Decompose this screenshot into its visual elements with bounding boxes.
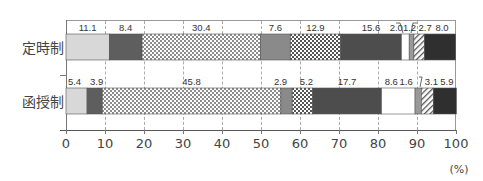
x-tick-mark (144, 130, 145, 134)
x-tick-mark (300, 130, 301, 134)
x-tick-mark (339, 130, 340, 134)
x-tick-label: 30 (175, 136, 192, 151)
x-tick-mark (183, 130, 184, 134)
x-axis-line (60, 130, 456, 131)
x-tick-mark (378, 130, 379, 134)
x-tick-label: 40 (214, 136, 231, 151)
leader-lines (0, 0, 483, 181)
x-axis-unit: (%) (449, 163, 468, 176)
x-tick-mark (66, 130, 67, 134)
x-tick-label: 80 (370, 136, 387, 151)
x-tick-mark (261, 130, 262, 134)
x-tick-label: 100 (444, 136, 469, 151)
x-tick-label: 90 (409, 136, 426, 151)
x-tick-label: 0 (62, 136, 70, 151)
x-tick-label: 20 (136, 136, 153, 151)
x-tick-label: 70 (331, 136, 348, 151)
x-tick-mark (105, 130, 106, 134)
x-tick-mark (417, 130, 418, 134)
x-tick-label: 60 (292, 136, 309, 151)
x-tick-label: 50 (253, 136, 270, 151)
stacked-bar-chart: 定時制 函授制 11.18.430.47.612.915.62.01.22.78… (0, 0, 483, 181)
x-tick-label: 10 (97, 136, 114, 151)
x-tick-mark (456, 130, 457, 134)
x-tick-mark (222, 130, 223, 134)
